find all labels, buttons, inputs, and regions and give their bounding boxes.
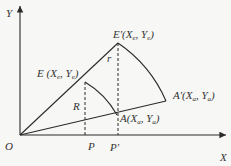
diagram-canvas: Y X O P P' R r E (Xe, Ye) E'(Xe, Ye) A'(… [0,0,231,166]
point-P-prime-label: P' [109,141,120,153]
ray-O-E-prime [20,43,118,135]
R-label: R [72,100,80,112]
arc-E-prime-A-prime [118,43,166,101]
origin-label: O [5,140,13,152]
r-label: r [107,52,112,64]
point-A-label: A(Xa, Ya) [119,112,160,126]
arc-E-A [85,82,117,115]
point-A-prime-label: A'(Xa, Ya) [172,89,215,103]
point-E-prime-label: E'(Xe, Ye) [112,28,154,42]
point-P-label: P [87,140,95,152]
x-axis-label: X [219,151,228,163]
y-axis-label: Y [6,7,14,19]
point-E-label: E (Xe, Ye) [36,67,79,81]
